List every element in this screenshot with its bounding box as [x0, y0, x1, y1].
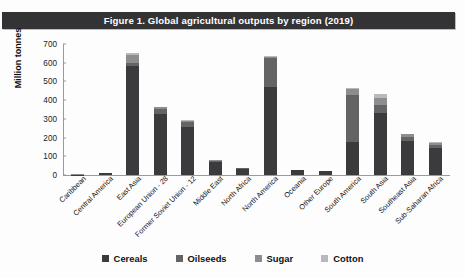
legend-swatch-icon [321, 255, 328, 262]
figure-container: Figure 1. Global agricultural outputs by… [0, 0, 465, 278]
stacked-bar[interactable] [264, 56, 277, 175]
y-axis-tick-label: 500 [3, 77, 63, 86]
legend-label: Cotton [333, 253, 363, 264]
x-axis-tick-label-text: Oceania [282, 174, 308, 200]
bar-slot [367, 44, 395, 175]
legend-label: Cereals [114, 253, 148, 264]
y-axis-tick-label: 0 [3, 171, 63, 180]
stacked-bar[interactable] [346, 88, 359, 175]
bar-slot [92, 44, 120, 175]
stacked-bar[interactable] [154, 107, 167, 175]
bar-slot [119, 44, 147, 175]
stacked-bar[interactable] [374, 94, 387, 175]
stacked-bar[interactable] [401, 134, 414, 175]
bar-slot [64, 44, 92, 175]
bar-series-group [64, 44, 449, 175]
bar-segment-cereals [154, 114, 167, 175]
legend-swatch-icon [176, 255, 183, 262]
legend-label: Oilseeds [188, 253, 227, 264]
bar-slot [422, 44, 450, 175]
legend-swatch-icon [255, 255, 262, 262]
bar-segment-oilseeds [374, 105, 387, 113]
y-axis-tick-label: 700 [3, 40, 63, 49]
bar-segment-sugar [126, 55, 139, 63]
bar-segment-cereals [346, 142, 359, 175]
bar-slot [174, 44, 202, 175]
plot-area [64, 44, 449, 175]
chart-legend: CerealsOilseedsSugarCotton [0, 250, 465, 266]
y-axis-tick-label: 300 [3, 114, 63, 123]
y-axis-tick-label: 400 [3, 96, 63, 105]
bar-segment-cereals [126, 66, 139, 175]
bar-segment-oilseeds [346, 95, 359, 142]
figure-title-banner: Figure 1. Global agricultural outputs by… [2, 12, 455, 29]
stacked-bar[interactable] [209, 160, 222, 175]
legend-item-cereals[interactable]: Cereals [102, 253, 148, 264]
legend-item-oilseeds[interactable]: Oilseeds [176, 253, 227, 264]
y-axis-tick-label: 200 [3, 133, 63, 142]
stacked-bar[interactable] [126, 53, 139, 175]
page-title: Figure 1. Global agricultural outputs by… [104, 15, 354, 26]
bar-slot [147, 44, 175, 175]
stacked-bar[interactable] [429, 142, 442, 175]
bar-segment-cereals [181, 127, 194, 175]
y-axis-tick-label: 600 [3, 58, 63, 67]
bar-segment-cereals [264, 87, 277, 175]
bar-slot [257, 44, 285, 175]
x-label-slot: North America [257, 177, 285, 239]
bar-slot [394, 44, 422, 175]
bar-slot [284, 44, 312, 175]
bar-slot [202, 44, 230, 175]
legend-item-sugar[interactable]: Sugar [255, 253, 294, 264]
stacked-bar[interactable] [181, 120, 194, 175]
x-axis-labels: CaribbeanCentral AmericaEast AsiaEuropea… [64, 177, 449, 239]
bar-slot [339, 44, 367, 175]
legend-label: Sugar [267, 253, 294, 264]
bar-segment-oilseeds [264, 58, 277, 87]
x-label-slot: Sub-Saharan Africa [422, 177, 450, 239]
x-axis-line [63, 175, 450, 176]
bar-slot [229, 44, 257, 175]
bar-segment-cereals [209, 162, 222, 175]
bar-segment-cereals [429, 148, 442, 175]
bar-slot [312, 44, 340, 175]
bar-segment-cereals [401, 141, 414, 175]
legend-item-cotton[interactable]: Cotton [321, 253, 363, 264]
legend-swatch-icon [102, 255, 109, 262]
bar-segment-cereals [374, 113, 387, 175]
y-axis-tick-label: 100 [3, 152, 63, 161]
